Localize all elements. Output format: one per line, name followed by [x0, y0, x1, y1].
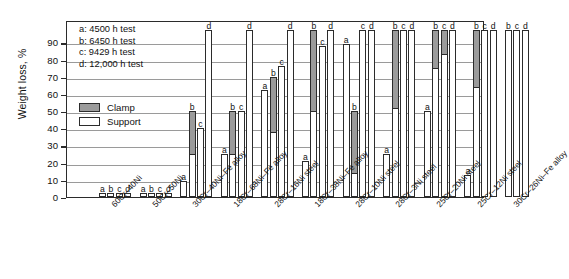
bar-label: a: [141, 184, 146, 194]
legend-row-clamp: Clamp: [79, 100, 141, 114]
bar: [270, 77, 277, 197]
bar: [481, 30, 488, 197]
bar-label: c: [442, 21, 446, 31]
bar-label: b: [190, 102, 195, 112]
bar-label: c: [361, 21, 365, 31]
bar-label: b: [230, 102, 235, 112]
bar-label: b: [433, 21, 438, 31]
bar-label: c: [239, 102, 243, 112]
bar-clamp-segment: [474, 31, 479, 88]
y-axis-tick-label: 90: [18, 37, 58, 48]
bar-label: c: [320, 37, 324, 47]
bar-label: c: [198, 119, 202, 129]
bar: [205, 30, 212, 197]
bar-label: a: [384, 145, 389, 155]
bar-label: b: [506, 21, 511, 31]
test-duration-legend: a: 4500 h testb: 6450 h testc: 9429 h te…: [79, 24, 143, 70]
bar-label: a: [100, 184, 105, 194]
y-axis-tick-label: 60: [18, 89, 58, 100]
bar-label: d: [328, 21, 333, 31]
legend-test-line: c: 9429 h test: [79, 47, 143, 59]
bar-label: b: [352, 102, 357, 112]
bar-label: c: [483, 21, 487, 31]
series-legend: Clamp Support: [79, 100, 141, 128]
bar-clamp-segment: [393, 31, 398, 108]
bar: [400, 30, 407, 197]
legend-test-line: a: 4500 h test: [79, 24, 143, 36]
bar-label: d: [369, 21, 374, 31]
bar-label: a: [425, 102, 430, 112]
bar-clamp-segment: [230, 112, 235, 155]
bar-label: b: [393, 21, 398, 31]
y-axis-tick-label: 10: [18, 175, 58, 186]
bar-label: c: [515, 21, 519, 31]
y-axis-tick-label: 40: [18, 123, 58, 134]
legend-row-support: Support: [79, 114, 141, 128]
bar-label: d: [450, 21, 455, 31]
y-axis-tick-label: 70: [18, 72, 58, 83]
bar: [287, 30, 294, 197]
bar: [408, 30, 415, 197]
bar-label: c: [280, 57, 284, 67]
bar-label: a: [222, 145, 227, 155]
bar-label: b: [271, 68, 276, 78]
bar: [368, 30, 375, 197]
bar-label: b: [149, 184, 154, 194]
bar: [522, 30, 529, 197]
legend-label-clamp: Clamp: [107, 102, 135, 113]
bar-label: b: [312, 21, 317, 31]
y-axis-tick-label: 30: [18, 140, 58, 151]
x-axis-category-label: 30Cr–26Ni–Fe alloy: [512, 149, 569, 210]
bar-clamp-segment: [311, 31, 316, 112]
bar-label: d: [288, 21, 293, 31]
bar: [327, 30, 334, 197]
bar: [424, 111, 431, 197]
bar: [319, 46, 326, 197]
bar: [449, 30, 456, 197]
bar: [278, 66, 285, 197]
bar-clamp-segment: [433, 31, 438, 69]
legend-test-line: b: 6450 h test: [79, 36, 143, 48]
bar-label: d: [410, 21, 415, 31]
bar-label: a: [344, 35, 349, 45]
y-axis-tick-label: 0: [18, 192, 58, 203]
support-swatch-icon: [79, 117, 100, 126]
legend-label-support: Support: [107, 116, 141, 127]
bar-label: d: [491, 21, 496, 31]
bar-label: d: [207, 21, 212, 31]
bar-label: d: [523, 21, 528, 31]
bar: [246, 30, 253, 197]
bar-clamp-segment: [442, 31, 447, 55]
bar-label: c: [401, 21, 405, 31]
bar: [359, 30, 366, 197]
y-axis-tick-label: 20: [18, 158, 58, 169]
bar-clamp-segment: [190, 112, 195, 155]
bar-label: a: [263, 81, 268, 91]
bar: [189, 111, 196, 197]
y-axis-tick-mark: [61, 198, 66, 199]
bar-label: b: [474, 21, 479, 31]
clamp-swatch-icon: [79, 103, 100, 112]
bar-label: a: [303, 152, 308, 162]
bar: [490, 30, 497, 197]
bar-label: b: [109, 184, 114, 194]
bar: [441, 30, 448, 197]
bar-clamp-segment: [271, 78, 276, 133]
y-axis-tick-label: 80: [18, 55, 58, 66]
legend-test-line: d: 12,000 h test: [79, 59, 143, 71]
bar-label: d: [247, 21, 252, 31]
y-axis-tick-label: 50: [18, 106, 58, 117]
